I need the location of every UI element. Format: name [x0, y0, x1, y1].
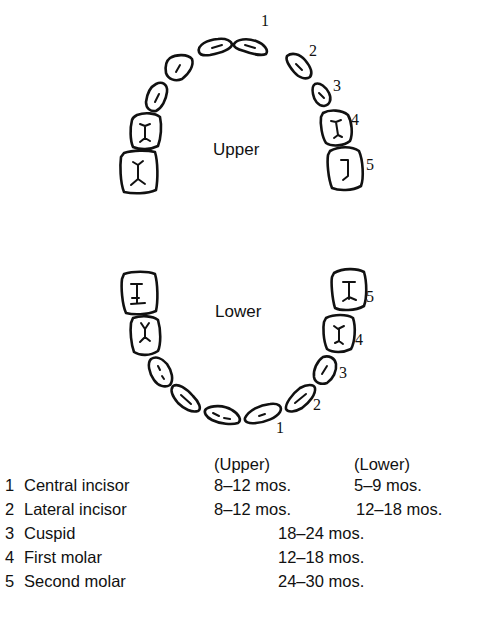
tooth-number: 5	[5, 572, 14, 591]
lower-left-cuspid-mark	[158, 366, 164, 379]
lower-arch-label: Lower	[215, 302, 261, 322]
upper-arch	[120, 39, 362, 194]
combined-eruption-age: 24–30 mos.	[278, 572, 364, 591]
upper-arch-label: Upper	[213, 140, 259, 160]
upper-tooth-number-3: 3	[333, 77, 341, 95]
eruption-legend: (Upper) (Lower) 1 Central incisor 8–12 m…	[0, 455, 491, 605]
lower-left-first-molar-fissure	[140, 323, 150, 342]
lower-right-central-incisor-mark	[259, 414, 265, 416]
lower-tooth-number-4: 4	[355, 331, 363, 349]
lower-left-central-incisor	[205, 406, 240, 424]
upper-left-second-molar-fissure	[131, 161, 145, 185]
upper-right-cuspid-mark	[319, 93, 324, 98]
tooth-name: Lateral incisor	[24, 500, 127, 519]
upper-left-lateral-incisor-mark	[176, 65, 180, 72]
upper-eruption-age: 8–12 mos.	[214, 500, 291, 519]
upper-right-central-incisor-mark	[245, 45, 255, 48]
tooth-number: 2	[5, 500, 14, 519]
lower-tooth-number-2: 2	[313, 396, 321, 414]
upper-left-first-molar-fissure	[140, 124, 150, 142]
lower-tooth-number-1: 1	[276, 419, 284, 437]
tooth-number: 1	[5, 476, 14, 495]
lower-left-cuspid	[149, 358, 172, 387]
lower-column-header: (Lower)	[354, 455, 410, 474]
tooth-name: Central incisor	[24, 476, 129, 495]
upper-right-lateral-incisor-mark	[296, 64, 302, 70]
lower-arch	[122, 269, 367, 424]
tooth-name: Cuspid	[24, 524, 75, 543]
lower-eruption-age: 5–9 mos.	[354, 476, 422, 495]
upper-tooth-number-5: 5	[366, 156, 374, 174]
legend-row: 5 Second molar 24–30 mos.	[0, 572, 491, 592]
lower-left-second-molar-fissure	[131, 284, 145, 304]
upper-left-central-incisor-mark	[212, 45, 222, 48]
lower-eruption-age: 12–18 mos.	[356, 500, 442, 519]
lower-right-first-molar-fissure	[334, 326, 344, 344]
legend-header-row: (Upper) (Lower)	[0, 455, 491, 475]
lower-right-second-molar-fissure	[343, 282, 356, 301]
lower-right-cuspid-mark	[322, 366, 327, 374]
upper-right-second-molar	[328, 147, 363, 190]
tooth-number: 3	[5, 524, 14, 543]
legend-row: 3 Cuspid 18–24 mos.	[0, 524, 491, 544]
tooth-number: 4	[5, 548, 14, 567]
legend-row: 4 First molar 12–18 mos.	[0, 548, 491, 568]
upper-eruption-age: 8–12 mos.	[214, 476, 291, 495]
upper-right-second-molar-fissure	[341, 160, 348, 180]
lower-left-second-molar	[122, 272, 158, 315]
lower-left-lateral-incisor-mark	[181, 395, 191, 404]
combined-eruption-age: 12–18 mos.	[278, 548, 364, 567]
combined-eruption-age: 18–24 mos.	[278, 524, 364, 543]
lower-tooth-number-5: 5	[366, 288, 374, 306]
lower-tooth-number-3: 3	[339, 364, 347, 382]
legend-row: 2 Lateral incisor 8–12 mos. 12–18 mos.	[0, 500, 491, 520]
upper-left-cuspid-mark	[155, 94, 159, 102]
lower-right-lateral-incisor-mark	[295, 394, 306, 403]
tooth-name: Second molar	[24, 572, 126, 591]
dental-arch-diagram: Upper Lower 1 2 3 4 5 1 2 3 4 5	[0, 0, 491, 440]
tooth-name: First molar	[24, 548, 102, 567]
teeth-drawing	[0, 0, 491, 440]
upper-tooth-number-4: 4	[351, 111, 359, 129]
upper-right-first-molar-fissure	[331, 120, 342, 138]
upper-tooth-number-1: 1	[261, 12, 269, 30]
lower-left-central-incisor-mark	[213, 413, 230, 419]
upper-tooth-number-2: 2	[309, 42, 317, 60]
legend-row: 1 Central incisor 8–12 mos. 5–9 mos.	[0, 476, 491, 496]
upper-column-header: (Upper)	[214, 455, 270, 474]
